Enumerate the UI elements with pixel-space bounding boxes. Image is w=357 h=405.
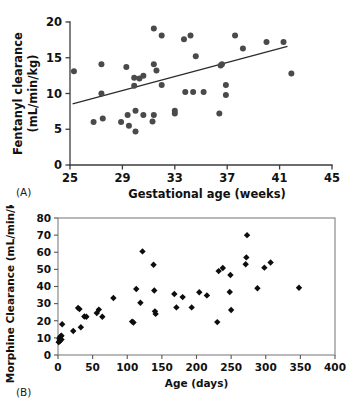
x-tick-label: 150 — [151, 361, 173, 373]
data-point — [173, 304, 179, 310]
x-tick-label: 50 — [85, 361, 100, 373]
y-tick-label: 40 — [36, 280, 51, 292]
data-point — [227, 272, 233, 278]
data-points-group — [71, 25, 294, 134]
data-point — [204, 292, 210, 298]
panel-b-label: (B) — [16, 386, 31, 398]
x-tick-label: 29 — [114, 171, 130, 185]
data-point — [242, 261, 248, 267]
y-tick-label: 10 — [46, 87, 62, 101]
data-point — [71, 68, 77, 74]
data-point — [151, 287, 157, 293]
x-tick-label: 0 — [54, 361, 61, 373]
y-tick-label: 70 — [36, 229, 51, 241]
data-point — [288, 70, 294, 76]
data-point — [188, 33, 194, 39]
data-point — [159, 82, 165, 88]
x-tick-label: 37 — [219, 171, 235, 185]
data-point — [118, 119, 124, 125]
y-tick-label: 20 — [36, 315, 51, 327]
data-point — [139, 248, 145, 254]
data-point — [131, 83, 137, 89]
y-tick-label: 30 — [36, 297, 51, 309]
y-tick-label: 15 — [46, 51, 62, 65]
x-tick-label: 250 — [220, 361, 242, 373]
data-point — [171, 291, 177, 297]
data-point — [133, 128, 139, 134]
data-point — [91, 119, 97, 125]
x-tick-label: 400 — [324, 361, 346, 373]
data-point — [219, 61, 225, 67]
y-tick-label: 0 — [44, 349, 51, 361]
data-point — [172, 111, 178, 117]
data-point — [99, 314, 105, 320]
data-point — [150, 262, 156, 268]
data-point — [140, 73, 146, 79]
x-axis-title: Gestational age (weeks) — [128, 187, 286, 201]
data-point — [188, 304, 194, 310]
data-point — [110, 295, 116, 301]
data-point — [100, 116, 106, 122]
data-point — [153, 68, 159, 74]
panel-b-plot-area: 0102030405060708005010015020025030035040… — [0, 205, 357, 405]
regression-line — [73, 46, 288, 104]
data-point — [228, 307, 234, 313]
panel-b-morphine-scatter: 0102030405060708005010015020025030035040… — [0, 205, 357, 405]
data-point — [264, 39, 270, 45]
data-point — [190, 89, 196, 95]
y-axis-title-text: Morphine Clearance (mL/min/kg) — [4, 205, 16, 383]
panel-a-fentanyl-scatter: 05101520252933374145Gestational age (wee… — [0, 0, 357, 205]
x-tick-label: 45 — [324, 171, 340, 185]
panel-a-label: (A) — [16, 186, 31, 198]
data-point — [140, 112, 146, 118]
data-point — [150, 118, 156, 124]
y-tick-label: 50 — [36, 263, 51, 275]
data-point — [151, 61, 157, 67]
y-tick-label: 20 — [46, 15, 62, 29]
y-axis-title: Morphine Clearance (mL/min/kg) — [4, 205, 16, 383]
data-point — [216, 111, 222, 117]
data-point — [214, 319, 220, 325]
data-point — [240, 45, 246, 51]
data-point — [78, 324, 84, 330]
data-point — [131, 75, 137, 81]
data-point — [151, 25, 157, 31]
data-point — [223, 82, 229, 88]
data-point — [137, 300, 143, 306]
plot-frame — [58, 218, 335, 355]
y-tick-label: 10 — [36, 332, 51, 344]
data-point — [181, 36, 187, 42]
data-point — [98, 91, 104, 97]
data-point — [123, 64, 129, 70]
data-point — [59, 321, 65, 327]
data-point — [254, 285, 260, 291]
y-axis-title-line2: (mL/min/kg) — [26, 54, 40, 132]
data-point — [126, 123, 132, 129]
data-point — [159, 33, 165, 39]
data-point — [133, 108, 139, 114]
data-point — [125, 112, 131, 118]
x-tick-label: 41 — [272, 171, 288, 185]
x-tick-label: 300 — [255, 361, 277, 373]
data-point — [296, 285, 302, 291]
x-tick-label: 200 — [186, 361, 208, 373]
panel-a-plot-area: 05101520252933374145Gestational age (wee… — [0, 0, 357, 205]
x-tick-label: 350 — [289, 361, 311, 373]
data-point — [98, 61, 104, 67]
data-point — [133, 286, 139, 292]
y-tick-label: 80 — [36, 212, 51, 224]
y-tick-label: 0 — [54, 158, 62, 172]
data-point — [232, 33, 238, 39]
x-axis-title: Age (days) — [165, 377, 228, 389]
data-point — [151, 112, 157, 118]
data-point — [261, 264, 267, 270]
data-point — [196, 289, 202, 295]
data-point — [179, 294, 185, 300]
y-tick-label: 5 — [54, 122, 62, 136]
data-point — [182, 89, 188, 95]
x-tick-label: 100 — [116, 361, 138, 373]
data-point — [267, 259, 273, 265]
y-axis-title: Fentanyl clearance(mL/min/kg) — [11, 32, 40, 155]
data-point — [70, 328, 76, 334]
data-point — [223, 92, 229, 98]
